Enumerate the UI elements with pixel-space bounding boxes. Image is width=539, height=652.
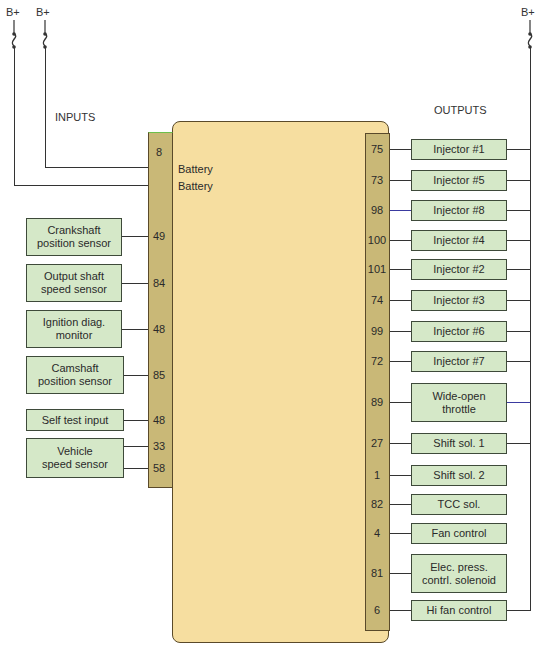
wire-input (124, 446, 148, 447)
wire-output (390, 269, 411, 270)
pin-label: 85 (146, 369, 172, 381)
output-wide-open-throttle: Wide-open throttle (411, 383, 507, 422)
output-injector-1: Injector #1 (411, 139, 507, 160)
output-shift-sol-1: Shift sol. 1 (411, 433, 507, 454)
wire-output (390, 504, 411, 505)
outputs-title: OUTPUTS (434, 104, 487, 116)
input-ignition-diag-monitor: Ignition diag. monitor (26, 310, 122, 348)
output-injector-4: Injector #4 (411, 230, 507, 251)
pin-label: 58 (146, 462, 172, 474)
output-label: Injector #5 (433, 174, 484, 187)
input-camshaft-position-sensor: Camshaft position sensor (26, 356, 124, 394)
wire-output (390, 210, 411, 211)
output-label: Wide-open (432, 390, 485, 403)
input-label: speed sensor (41, 283, 107, 296)
wire-output-bus (507, 269, 530, 270)
pin-label: 82 (364, 498, 390, 510)
wire-output-bus (507, 443, 530, 444)
output-injector-8: Injector #8 (411, 200, 507, 221)
output-label: Elec. press. (430, 561, 487, 574)
output-elec-press-control-solenoid: Elec. press. contrl. solenoid (411, 554, 507, 593)
output-label: TCC sol. (438, 498, 481, 511)
pin-label: 74 (364, 294, 390, 306)
input-label: Ignition diag. (43, 316, 105, 329)
pin-label: 72 (364, 355, 390, 367)
wire-input (122, 329, 148, 330)
wire-output-bus (507, 210, 530, 211)
battery-label-1: Battery (178, 163, 213, 175)
pin-label: 48 (146, 414, 172, 426)
input-label: Output shaft (44, 270, 104, 283)
wire-output (390, 402, 411, 403)
wire-output-bus (507, 610, 531, 611)
wire-bplus-2-horizontal (45, 167, 148, 168)
output-shift-sol-2: Shift sol. 2 (411, 465, 507, 486)
pin-label: 101 (364, 263, 390, 275)
pin-label: 1 (364, 469, 390, 481)
pin-label: 81 (364, 567, 390, 579)
pin-label: 73 (364, 174, 390, 186)
output-label: Injector #1 (433, 143, 484, 156)
output-label: Shift sol. 2 (433, 469, 484, 482)
wire-input (124, 375, 148, 376)
output-injector-2: Injector #2 (411, 259, 507, 280)
pin-label: 33 (146, 440, 172, 452)
pin-label: 89 (364, 396, 390, 408)
input-crankshaft-position-sensor: Crankshaft position sensor (26, 218, 122, 256)
wire-output-bus (507, 300, 530, 301)
output-label: Injector #6 (433, 325, 484, 338)
input-vehicle-speed-sensor: Vehicle speed sensor (26, 438, 124, 478)
wire-output-bus (507, 331, 530, 332)
output-label: Shift sol. 1 (433, 437, 484, 450)
wire-output (390, 610, 411, 611)
output-label: Injector #7 (433, 355, 484, 368)
ecm-module (172, 121, 389, 643)
wire-input (124, 420, 148, 421)
output-label: throttle (442, 403, 476, 416)
pin-label: 48 (146, 323, 172, 335)
pin-label: 98 (364, 204, 390, 216)
input-label: Camshaft (51, 362, 98, 375)
wire-output (390, 180, 411, 181)
pin-label: 49 (146, 230, 172, 242)
b-plus-label-3: B+ (521, 6, 535, 18)
input-label: Self test input (42, 414, 109, 427)
input-label: Crankshaft (47, 224, 100, 237)
wire-output (390, 240, 411, 241)
wire-bplus-1-horizontal (14, 185, 148, 186)
wire-output (390, 443, 411, 444)
input-label: Vehicle (57, 445, 92, 458)
input-label: monitor (56, 329, 93, 342)
output-label: Hi fan control (427, 604, 492, 617)
wire-output (390, 533, 411, 534)
pin-label: 84 (146, 277, 172, 289)
output-label: Fan control (431, 527, 486, 540)
wire-bplus-1-vertical (14, 47, 15, 186)
wire-output-bus (507, 402, 530, 403)
inputs-title: INPUTS (55, 111, 95, 123)
output-tcc-sol: TCC sol. (411, 494, 507, 515)
wire-output-bus (507, 149, 530, 150)
battery-label-2: Battery (178, 180, 213, 192)
wire-input (122, 236, 148, 237)
wire-output-bus (507, 361, 530, 362)
input-connector (148, 132, 173, 488)
pin-label: 4 (364, 527, 390, 539)
pin-battery: 8 (146, 146, 172, 158)
output-hi-fan-control: Hi fan control (411, 600, 507, 621)
output-label: Injector #3 (433, 294, 484, 307)
wire-output (390, 573, 411, 574)
wire-bplus-2-vertical (45, 47, 46, 168)
b-plus-label-1: B+ (6, 6, 20, 18)
output-injector-5: Injector #5 (411, 170, 507, 191)
input-label: position sensor (38, 375, 112, 388)
pin-label: 6 (364, 604, 390, 616)
wire-output-bus (507, 180, 530, 181)
wire-output (390, 149, 411, 150)
wire-input (122, 283, 148, 284)
output-label: Injector #2 (433, 263, 484, 276)
pin-label: 99 (364, 325, 390, 337)
input-output-shaft-speed-sensor: Output shaft speed sensor (26, 264, 122, 302)
wire-output-bus (507, 240, 530, 241)
output-label: Injector #8 (433, 204, 484, 217)
